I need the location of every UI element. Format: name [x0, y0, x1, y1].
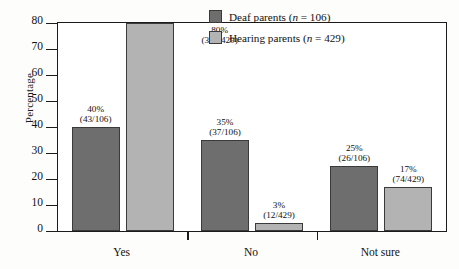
bar	[126, 23, 174, 231]
y-axis-tick-mark	[46, 153, 57, 154]
plot-area: 0102030405060708040%(43/106)80%(343/429)…	[57, 22, 447, 232]
y-axis-tick: 50	[37, 101, 57, 102]
x-axis-category-label: No	[244, 246, 258, 258]
group-separator-tick	[317, 231, 318, 240]
bar	[201, 140, 249, 231]
x-axis-category-label: Yes	[113, 246, 130, 258]
group-separator-tick	[187, 231, 188, 240]
bar-fraction: (74/429)	[393, 174, 425, 184]
y-axis-tick-label: 30	[32, 144, 44, 156]
bar-value-label: 40%(43/106)	[80, 104, 112, 124]
bar-value-label: 17%(74/429)	[393, 164, 425, 184]
bar-percent: 25%	[346, 143, 363, 153]
x-axis-category-label: Not sure	[361, 246, 400, 258]
bar-value-label: 3%(12/429)	[263, 200, 295, 220]
chart-legend: Deaf parents (n = 106) Hearing parents (…	[209, 6, 381, 48]
y-axis-tick-mark	[46, 49, 57, 50]
bar	[72, 127, 120, 231]
bar-percent: 17%	[400, 164, 417, 174]
bar-percent: 40%	[87, 104, 104, 114]
bar-fraction: (43/106)	[80, 114, 112, 124]
y-axis-tick-mark	[46, 179, 57, 180]
y-axis-tick-mark	[46, 231, 57, 232]
legend-swatch-hearing-parents	[209, 31, 222, 44]
bar-fraction: (26/106)	[339, 153, 371, 163]
legend-label-hearing-parents: Hearing parents (n = 429)	[229, 32, 345, 44]
legend-item: Hearing parents (n = 429)	[209, 27, 381, 48]
bar-percent: 3%	[273, 200, 285, 210]
bar-value-label: 35%(37/106)	[209, 117, 241, 137]
y-axis-tick: 0	[37, 231, 57, 232]
y-axis-tick: 60	[37, 75, 57, 76]
bar	[384, 187, 432, 231]
y-axis-tick-label: 10	[32, 196, 44, 208]
y-axis-tick: 40	[37, 127, 57, 128]
legend-label-deaf-parents: Deaf parents (n = 106)	[229, 11, 330, 23]
y-axis-tick-label: 40	[32, 118, 44, 130]
bar-fraction: (37/106)	[209, 127, 241, 137]
bar	[255, 223, 303, 231]
y-axis-tick-label: 50	[32, 92, 44, 104]
y-axis-tick-label: 70	[32, 40, 44, 52]
y-axis-tick-mark	[46, 127, 57, 128]
y-axis-tick-mark	[46, 75, 57, 76]
y-axis-tick-label: 20	[32, 170, 44, 182]
bar-fraction: (12/429)	[263, 210, 295, 220]
y-axis-tick-mark	[46, 101, 57, 102]
y-axis-tick-label: 0	[37, 222, 43, 234]
y-axis-tick: 80	[37, 23, 57, 24]
bar-value-label: 25%(26/106)	[339, 143, 371, 163]
bar-percent: 35%	[217, 117, 234, 127]
y-axis-tick-label: 60	[32, 66, 44, 78]
bar	[330, 166, 378, 231]
y-axis-tick-mark	[46, 205, 57, 206]
bar-chart-figure: Percentage 0102030405060708040%(43/106)8…	[0, 0, 459, 269]
y-axis-tick-mark	[46, 23, 57, 24]
y-axis-tick: 20	[37, 179, 57, 180]
legend-swatch-deaf-parents	[209, 10, 222, 23]
y-axis-tick: 30	[37, 153, 57, 154]
y-axis-tick: 10	[37, 205, 57, 206]
y-axis-tick-label: 80	[32, 14, 44, 26]
legend-item: Deaf parents (n = 106)	[209, 6, 381, 27]
y-axis-tick: 70	[37, 49, 57, 50]
